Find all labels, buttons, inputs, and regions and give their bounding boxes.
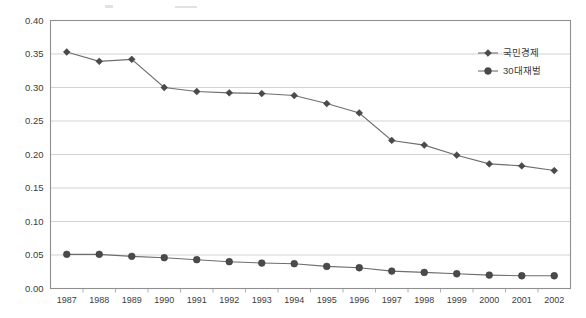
y-axis-tick-label: 0.10 [25,216,44,227]
data-point-marker [226,89,233,96]
y-axis-tick-label: 0.35 [25,48,44,59]
data-point-marker [291,92,298,99]
x-axis-tick-label: 2002 [544,295,564,305]
data-point-marker [193,88,200,95]
data-point-marker [356,264,363,271]
data-point-marker [551,167,558,174]
x-axis-tick-label: 2000 [479,295,499,305]
data-point-marker [193,256,200,263]
x-axis-tick-label: 1999 [447,295,467,305]
data-point-marker [453,270,460,277]
data-point-marker [258,260,265,267]
data-point-marker [96,251,103,258]
data-point-marker [323,263,330,270]
data-point-marker [388,268,395,275]
data-point-marker [421,142,428,149]
scan-artifact [105,5,113,8]
data-point-marker [453,152,460,159]
y-axis-tick-label: 0.05 [25,249,44,260]
data-point-marker [291,260,298,267]
series-line-2 [67,254,555,275]
y-axis-tick-label: 0.20 [25,149,44,160]
data-point-marker [323,100,330,107]
x-axis-tick-label: 1996 [349,295,369,305]
y-axis-tick-label: 0.40 [25,15,44,26]
x-axis-tick-label: 1994 [284,295,304,305]
x-axis-tick-label: 1998 [414,295,434,305]
y-axis-tick-label: 0.15 [25,182,44,193]
data-point-marker [486,272,493,279]
x-axis-tick-label: 1995 [317,295,337,305]
y-axis-tick-label: 0.25 [25,115,44,126]
data-point-marker [421,269,428,276]
y-axis-tick-label: 0.30 [25,82,44,93]
x-axis-tick-label: 1988 [89,295,109,305]
legend-entry-label: 국민경제 [503,47,539,58]
x-axis-tick-label: 1993 [252,295,272,305]
data-point-marker [128,253,135,260]
x-axis-tick-label: 1990 [154,295,174,305]
x-axis-tick-label: 1989 [122,295,142,305]
data-point-marker [258,90,265,97]
data-point-marker [518,162,525,169]
data-point-marker [96,58,103,65]
y-axis-tick-label: 0.00 [25,283,44,294]
x-axis-tick-label: 1992 [219,295,239,305]
x-axis-tick-label: 1997 [382,295,402,305]
x-axis-tick-label: 2001 [512,295,532,305]
x-axis-tick-label: 1987 [57,295,77,305]
legend-marker-diamond-icon [485,50,492,57]
x-axis-tick-label: 1991 [187,295,207,305]
data-point-marker [161,254,168,261]
data-point-marker [486,160,493,167]
legend-entry-label: 30대재벌 [503,65,541,76]
scan-artifact [175,6,197,8]
chart-canvas: 0.000.050.100.150.200.250.300.350.401987… [0,0,586,318]
legend-marker-circle-icon [485,68,492,75]
series-line-1 [67,52,555,171]
data-point-marker [226,258,233,265]
line-chart-figure: 0.000.050.100.150.200.250.300.350.401987… [0,0,586,318]
data-point-marker [63,251,70,258]
data-point-marker [518,272,525,279]
data-point-marker [551,272,558,279]
